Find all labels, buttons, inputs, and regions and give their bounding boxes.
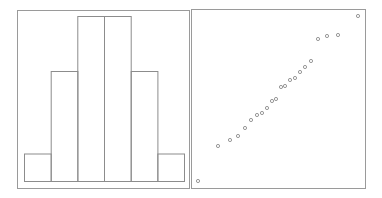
scatter-point <box>196 179 199 182</box>
scatter-point <box>279 85 282 88</box>
scatter-point <box>336 33 339 36</box>
histogram-chart <box>0 0 382 198</box>
scatter-points <box>196 14 359 182</box>
histogram-bar <box>25 154 52 182</box>
scatter-point <box>249 118 252 121</box>
histogram-frame <box>18 11 190 189</box>
scatter-point <box>303 65 306 68</box>
scatter-point <box>298 70 301 73</box>
histogram-bar <box>78 17 105 182</box>
scatter-point <box>316 37 319 40</box>
scatter-point <box>288 78 291 81</box>
scatter-point <box>265 106 268 109</box>
histogram-bar <box>158 154 185 182</box>
scatter-point <box>274 97 277 100</box>
histogram-bar <box>51 72 78 182</box>
histogram-bar <box>131 72 158 182</box>
scatter-point <box>260 111 263 114</box>
scatter-point <box>309 59 312 62</box>
scatter-point <box>228 138 231 141</box>
scatter-point <box>270 99 273 102</box>
scatter-point <box>356 14 359 17</box>
scatter-point <box>243 126 246 129</box>
scatter-point <box>255 113 258 116</box>
scatter-point <box>283 84 286 87</box>
scatter-point <box>216 144 219 147</box>
scatter-point <box>293 76 296 79</box>
scatter-point <box>325 34 328 37</box>
scatter-point <box>236 134 239 137</box>
histogram-bars <box>25 17 185 182</box>
histogram-bar <box>105 17 132 182</box>
